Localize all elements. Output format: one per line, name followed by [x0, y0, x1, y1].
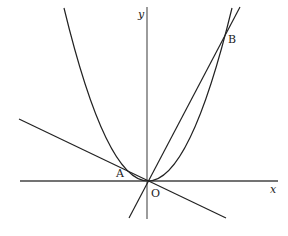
y-axis-label: y [138, 9, 144, 20]
point-a-label: A [116, 168, 124, 179]
x-axis-label: x [270, 184, 276, 195]
point-b-label: B [228, 34, 236, 45]
diagram-svg [0, 0, 288, 236]
line-ob [129, 7, 240, 218]
parabola-curve [64, 8, 232, 181]
origin-label: O [151, 188, 160, 199]
diagram-canvas: y x O A B [0, 0, 288, 236]
